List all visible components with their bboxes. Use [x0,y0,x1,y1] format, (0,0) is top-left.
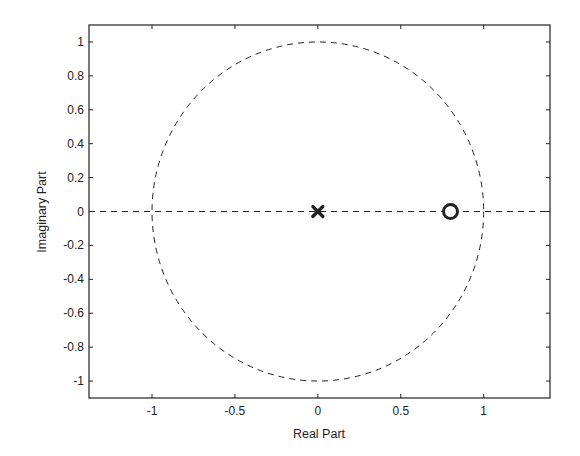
y-tick-label: -0.2 [63,238,84,252]
y-tick-label: 0.8 [67,69,84,83]
y-axis-label: Imaginary Part [35,171,49,253]
x-tick-label: -1 [147,404,158,418]
x-tick-label: 1 [480,404,487,418]
y-tick-label: 0 [77,205,84,219]
y-tick-label: -0.6 [63,306,84,320]
pole-zero-chart: -1-0.500.51 10.80.60.40.20-0.2-0.4-0.6-0… [0,0,580,456]
y-tick-label: 0.4 [67,137,84,151]
zero-marker-o-icon [444,205,458,219]
x-axis-ticks: -1-0.500.51 [147,25,488,418]
y-tick-label: 1 [77,35,84,49]
x-tick-label: -0.5 [225,404,246,418]
plot-area [89,25,550,398]
x-axis-label: Real Part [293,427,346,441]
y-tick-label: -0.8 [63,340,84,354]
x-tick-label: 0.5 [392,404,409,418]
y-tick-label: -0.4 [63,272,84,286]
y-tick-label: 0.2 [67,171,84,185]
y-tick-label: -1 [73,374,84,388]
y-tick-label: 0.6 [67,103,84,117]
x-tick-label: 0 [314,404,321,418]
